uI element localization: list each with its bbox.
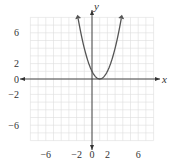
y-tick-label: −2 [8,89,19,100]
x-tick-label: 6 [136,149,141,160]
axes [20,10,160,150]
x-tick-label: 2 [105,149,110,160]
x-axis-arrow-right [155,77,160,81]
tick-labels: −6−2026620−2−6 [8,27,140,160]
curve-arrow-left [75,15,81,19]
y-tick-label: 0 [14,74,19,85]
parabola-chart: −6−2026620−2−6 x y [0,0,171,164]
y-axis-label: y [93,0,99,12]
y-tick-label: −6 [8,120,19,131]
curve-arrow-right [118,15,124,19]
x-tick-label: 0 [90,149,95,160]
x-tick-label: −2 [71,149,82,160]
x-axis-arrow-left [20,77,25,81]
x-axis-label: x [161,73,167,85]
y-tick-label: 6 [14,27,19,38]
x-tick-label: −6 [40,149,51,160]
y-tick-label: 2 [14,58,19,69]
